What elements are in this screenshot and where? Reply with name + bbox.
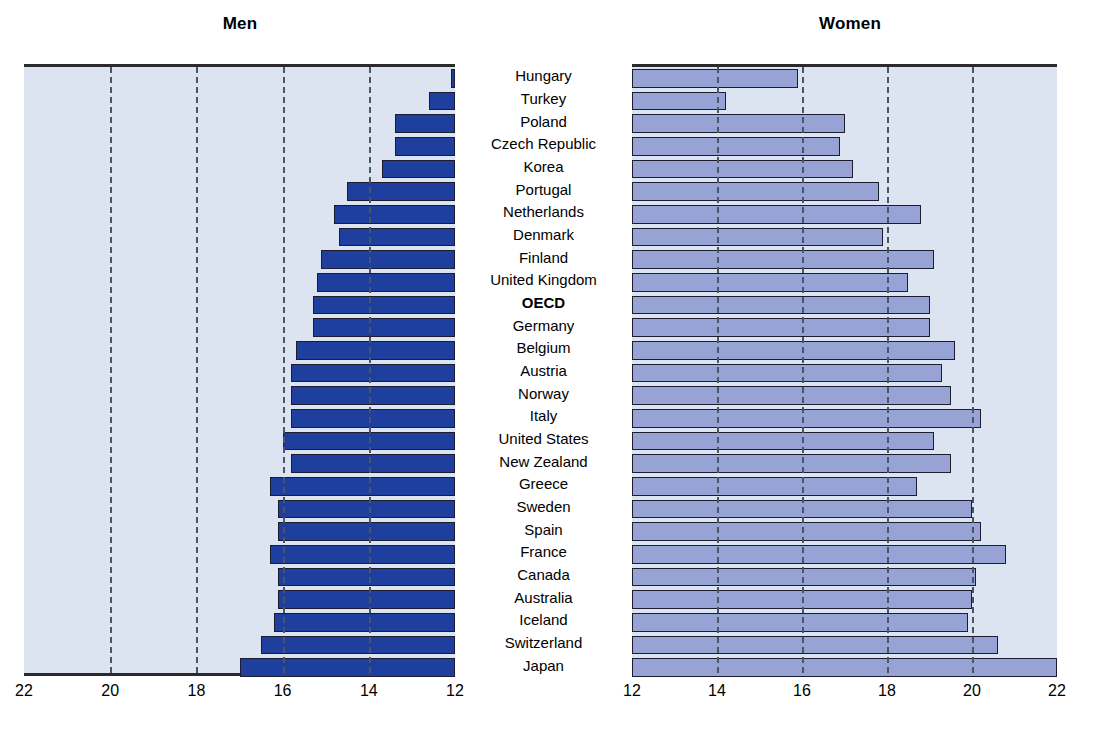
bar-row — [632, 634, 1057, 657]
category-label-column: HungaryTurkeyPolandCzech RepublicKoreaPo… — [455, 64, 632, 676]
bar-row — [632, 112, 1057, 135]
gridline-women-16 — [802, 67, 804, 673]
bar-row — [632, 656, 1057, 679]
bar-row — [24, 430, 455, 453]
category-label: Belgium — [455, 340, 632, 355]
category-label: Norway — [455, 386, 632, 401]
bar-women — [632, 522, 981, 541]
category-label: Denmark — [455, 227, 632, 242]
gridline-women-20 — [972, 67, 974, 673]
bar-row — [632, 611, 1057, 634]
bar-women — [632, 545, 1006, 564]
bar-women — [632, 318, 930, 337]
bar-row — [24, 611, 455, 634]
category-label: Australia — [455, 590, 632, 605]
x-tick-men-20: 20 — [101, 682, 119, 700]
x-tick-women-18: 18 — [878, 682, 896, 700]
category-label: France — [455, 544, 632, 559]
bar-row — [24, 543, 455, 566]
plot-area-women — [632, 64, 1057, 676]
bar-row — [632, 430, 1057, 453]
bar-row — [632, 316, 1057, 339]
bar-row — [24, 90, 455, 113]
bar-men — [321, 250, 455, 269]
bar-row — [632, 520, 1057, 543]
two-panel-bar-chart: Men Women HungaryTurkeyPolandCzech Repub… — [0, 0, 1096, 742]
bar-row — [632, 135, 1057, 158]
bar-rows-men — [24, 67, 455, 673]
category-label: Finland — [455, 250, 632, 265]
category-label: Czech Republic — [455, 136, 632, 151]
bar-women — [632, 69, 798, 88]
bar-women — [632, 364, 942, 383]
bar-row — [24, 316, 455, 339]
bar-men — [261, 636, 455, 655]
bar-row — [632, 294, 1057, 317]
gridline-men-20 — [110, 67, 112, 673]
bar-row — [24, 67, 455, 90]
bar-row — [632, 158, 1057, 181]
x-tick-men-12: 12 — [446, 682, 464, 700]
category-label: Iceland — [455, 612, 632, 627]
bar-rows-women — [632, 67, 1057, 673]
bar-women — [632, 477, 917, 496]
bar-row — [24, 180, 455, 203]
bar-row — [632, 362, 1057, 385]
category-label: United States — [455, 431, 632, 446]
bar-row — [24, 158, 455, 181]
category-label: OECD — [455, 295, 632, 310]
bar-row — [632, 384, 1057, 407]
bar-men — [278, 500, 455, 519]
category-label: Sweden — [455, 499, 632, 514]
category-label: Switzerland — [455, 635, 632, 650]
category-label: Poland — [455, 114, 632, 129]
category-label: Hungary — [455, 68, 632, 83]
bar-row — [632, 180, 1057, 203]
gridline-men-16 — [283, 67, 285, 673]
bar-women — [632, 182, 879, 201]
bar-row — [24, 248, 455, 271]
category-label: Turkey — [455, 91, 632, 106]
bar-women — [632, 205, 921, 224]
bar-row — [24, 135, 455, 158]
bar-women — [632, 454, 951, 473]
bar-men — [313, 296, 455, 315]
bar-men — [278, 568, 455, 587]
gridline-men-18 — [196, 67, 198, 673]
panel-title-men: Men — [140, 14, 340, 34]
bar-row — [24, 520, 455, 543]
category-label: New Zealand — [455, 454, 632, 469]
bar-men — [339, 228, 455, 247]
bar-men — [291, 409, 455, 428]
bar-row — [632, 271, 1057, 294]
bar-women — [632, 386, 951, 405]
bar-women — [632, 658, 1057, 677]
bar-row — [632, 588, 1057, 611]
category-label: Italy — [455, 408, 632, 423]
category-label: Greece — [455, 476, 632, 491]
bar-men — [347, 182, 455, 201]
bar-row — [632, 90, 1057, 113]
bar-row — [24, 588, 455, 611]
bar-row — [24, 452, 455, 475]
bar-men — [429, 92, 455, 111]
bar-row — [24, 294, 455, 317]
category-label: Korea — [455, 159, 632, 174]
x-tick-women-14: 14 — [708, 682, 726, 700]
x-tick-women-20: 20 — [963, 682, 981, 700]
bar-row — [24, 112, 455, 135]
category-label: Spain — [455, 522, 632, 537]
bar-row — [24, 271, 455, 294]
bar-men — [291, 364, 455, 383]
bar-men — [382, 160, 455, 179]
bar-women — [632, 341, 955, 360]
bar-women — [632, 636, 998, 655]
x-axis-men: 222018161412 — [24, 682, 455, 708]
bar-women — [632, 409, 981, 428]
bar-row — [24, 566, 455, 589]
bar-row — [632, 475, 1057, 498]
category-label: Austria — [455, 363, 632, 378]
category-label: Japan — [455, 658, 632, 673]
category-label: Portugal — [455, 182, 632, 197]
bar-women — [632, 92, 726, 111]
